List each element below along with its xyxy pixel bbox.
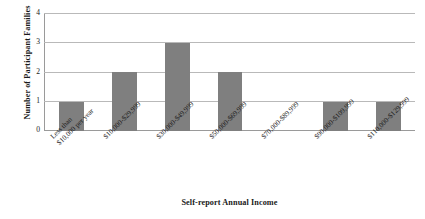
y-tick-label-2: 2 (36, 68, 40, 76)
x-tick-slot: $90,000-$109,999 (309, 133, 362, 191)
x-tick-slot: $30,000-$49,999 (151, 133, 204, 191)
y-tick-label-4: 4 (36, 9, 40, 17)
y-tick-label-0: 0 (36, 126, 40, 134)
x-tick-slot: $110,000-$129,999 (362, 133, 415, 191)
y-tick-label-3: 3 (36, 38, 40, 46)
y-tick-label-1: 1 (36, 97, 40, 105)
x-tick-slot: $70,000-$89,999 (256, 133, 309, 191)
x-axis-title: Self-report Annual Income (44, 198, 415, 207)
x-axis-tick-labels: Less than $10,000 per year $10,000-$29,9… (45, 133, 415, 191)
x-tick-slot: $10,000-$29,999 (98, 133, 151, 191)
bar-chart-figure: Number of Participant Families 4 3 2 1 0 (0, 0, 425, 219)
x-tick-slot: Less than $10,000 per year (45, 133, 98, 191)
x-tick-slot: $50,000-$69,999 (204, 133, 257, 191)
y-axis-title: Number of Participant Families (23, 0, 32, 138)
